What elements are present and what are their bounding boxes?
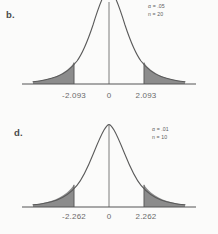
x-tick-label: -2.262 [62, 212, 86, 221]
x-tick-label: 2.093 [135, 91, 156, 100]
annotation-d: α = .01 n = 10 [152, 126, 169, 141]
x-tick-label: 2.262 [135, 212, 156, 221]
sample-size-label-b: n = 20 [148, 11, 165, 19]
alpha-label-d: α = .01 [152, 126, 169, 134]
x-tick-labels-b: -2.093 0 2.093 [0, 91, 218, 105]
sample-size-label-d: n = 10 [152, 134, 169, 142]
x-tick-labels-d: -2.262 0 2.262 [0, 212, 218, 226]
chart-panel-b: b. α = .05 n = 20 -2. [0, 0, 218, 117]
alpha-label-b: α = .05 [148, 3, 165, 11]
x-tick-label: 0 [107, 212, 112, 221]
annotation-b: α = .05 n = 20 [148, 3, 165, 18]
x-tick-label: -2.093 [62, 91, 86, 100]
x-tick-label: 0 [107, 91, 112, 100]
chart-panel-d: d. α = .01 n = 10 -2. [0, 117, 218, 234]
